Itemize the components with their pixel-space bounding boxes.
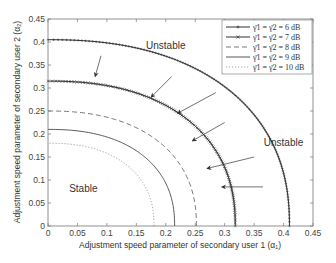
series-marker (279, 160, 281, 162)
series-marker (288, 210, 290, 212)
series-marker (131, 46, 133, 48)
series-marker (84, 40, 86, 42)
series-marker (280, 162, 282, 164)
series-line (48, 111, 196, 226)
series-marker (285, 182, 287, 184)
series-marker (288, 204, 290, 206)
series-marker (286, 193, 288, 195)
y-tick-label: 0.25 (28, 106, 45, 116)
chart: 00.050.10.150.20.250.30.350.40.4500.050.… (0, 0, 336, 263)
series-marker (140, 48, 142, 50)
series-marker (154, 52, 156, 54)
y-tick-label: 0.2 (33, 129, 45, 139)
series-marker (105, 42, 107, 44)
series-marker (286, 190, 288, 192)
series-marker (61, 39, 63, 41)
series-line (48, 143, 154, 226)
series-marker (285, 185, 287, 187)
series-marker (280, 165, 282, 167)
series-marker (287, 202, 289, 204)
series-marker (284, 180, 286, 182)
direction-arrow (151, 77, 172, 98)
series-marker (57, 39, 59, 41)
series-marker (288, 221, 290, 223)
series-marker (98, 41, 100, 43)
series-marker (52, 39, 54, 41)
series-marker (108, 42, 110, 44)
legend: γ̄1 = γ̄2 = 6 dBγ̄1 = γ̄2 = 7 dBγ̄1 = γ̄… (222, 20, 312, 74)
region-label: Stable (69, 183, 98, 194)
y-tick-label: 0.15 (28, 152, 45, 162)
series-marker (65, 39, 67, 41)
y-tick-label: 0.35 (28, 60, 45, 70)
region-label: Unstable (264, 137, 304, 148)
series-marker (88, 40, 90, 42)
series-marker (102, 41, 104, 43)
series-marker (81, 39, 83, 41)
series-marker (287, 196, 289, 198)
y-axis-label: Adjustment speed parameter of secondary … (12, 21, 22, 224)
series-marker (95, 40, 97, 42)
direction-arrow (207, 157, 254, 169)
series-marker (282, 170, 284, 172)
x-axis-label: Adjustment speed parameter of secondary … (79, 240, 281, 250)
x-tick-label: 0.05 (69, 228, 86, 238)
y-tick-label: 0 (40, 221, 45, 231)
x-tick-label: 0 (46, 228, 51, 238)
series-marker (115, 43, 117, 45)
y-tick-label: 0.45 (28, 14, 45, 24)
series-line (48, 129, 175, 226)
x-tick-label: 0.35 (246, 228, 263, 238)
series-marker (112, 43, 114, 45)
series-marker (287, 199, 289, 201)
direction-arrow (95, 56, 101, 77)
y-tick-label: 0.3 (33, 83, 45, 93)
series-marker (163, 54, 165, 56)
legend-entry: γ̄1 = γ̄2 = 8 dB (252, 43, 300, 52)
series-marker (281, 167, 283, 169)
series-marker (284, 177, 286, 179)
series-marker (134, 46, 136, 48)
x-tick-label: 0.25 (187, 228, 204, 238)
series-marker (160, 53, 162, 55)
y-tick-label: 0.05 (28, 198, 45, 208)
series-marker (288, 214, 290, 216)
legend-entry: γ̄1 = γ̄2 = 7 dB (252, 33, 300, 42)
series-marker (121, 44, 123, 46)
x-tick-label: 0.2 (160, 228, 172, 238)
series-marker (152, 51, 154, 53)
x-tick-label: 0.4 (278, 228, 290, 238)
x-tick-label: 0.45 (305, 228, 322, 238)
series-marker (128, 45, 130, 47)
legend-entry: γ̄1 = γ̄2 = 10 dB (252, 63, 304, 72)
series-marker (137, 47, 139, 49)
legend-entry: γ̄1 = γ̄2 = 6 dB (252, 23, 300, 32)
series-marker (283, 175, 285, 177)
series-marker (282, 172, 284, 174)
series-marker (288, 207, 290, 209)
series-marker (124, 45, 126, 47)
region-label: Unstable (146, 40, 186, 51)
legend-entry: γ̄1 = γ̄2 = 9 dB (252, 53, 300, 62)
series-marker (286, 188, 288, 190)
series-marker (73, 39, 75, 41)
series-marker (182, 115, 185, 118)
series-marker (166, 55, 168, 57)
series-marker (143, 49, 145, 51)
x-tick-label: 0.1 (101, 228, 113, 238)
y-tick-label: 0.1 (33, 175, 45, 185)
y-tick-label: 0.4 (33, 37, 45, 47)
series-marker (157, 53, 159, 55)
series-marker (288, 217, 290, 219)
x-tick-label: 0.15 (128, 228, 145, 238)
series-line (48, 81, 235, 226)
series-marker (69, 39, 71, 41)
series-marker (91, 40, 93, 42)
series-marker (118, 43, 120, 45)
direction-arrow (178, 93, 216, 114)
x-tick-label: 0.3 (219, 228, 231, 238)
series-marker (77, 39, 79, 41)
